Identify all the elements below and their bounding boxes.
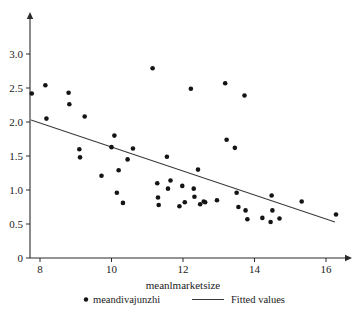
x-axis-tick-label: 12	[178, 263, 189, 275]
scatter-point	[270, 208, 275, 213]
scatter-point	[177, 204, 182, 209]
scatter-point	[150, 66, 155, 71]
x-axis-arrow	[345, 255, 352, 261]
scatter-point	[116, 168, 121, 173]
scatter-point	[109, 145, 114, 150]
scatter-point	[115, 190, 120, 195]
scatter-point	[299, 199, 304, 204]
scatter-point	[260, 216, 265, 221]
scatter-point	[78, 155, 83, 160]
scatter-point	[234, 190, 239, 195]
scatter-point	[44, 116, 49, 121]
scatter-point	[29, 91, 34, 96]
scatter-point	[182, 200, 187, 205]
scatter-point	[156, 203, 161, 208]
x-axis-tick-label: 8	[37, 263, 43, 275]
x-axis-tick-label: 10	[106, 263, 118, 275]
scatter-point	[180, 184, 185, 189]
scatter-point	[99, 173, 104, 178]
y-axis-tick-label: 3.0	[9, 48, 23, 60]
scatter-point	[192, 195, 197, 200]
scatter-point	[131, 146, 136, 151]
scatter-point	[203, 200, 208, 205]
scatter-point	[224, 137, 229, 142]
scatter-point	[334, 212, 339, 217]
scatter-point	[66, 90, 71, 95]
scatter-point	[277, 216, 282, 221]
y-axis-tick-label: 0	[18, 252, 24, 264]
scatter-point	[223, 81, 228, 86]
scatter-point	[165, 154, 170, 159]
scatter-point	[242, 93, 247, 98]
scatter-point	[168, 178, 173, 183]
x-axis-tick-label: 14	[249, 263, 261, 275]
scatter-point	[245, 217, 250, 222]
scatter-point	[189, 86, 194, 91]
scatter-point	[196, 167, 201, 172]
scatter-point	[243, 208, 248, 213]
scatter-point	[156, 195, 161, 200]
legend-label-fitted-values: Fitted values	[231, 294, 285, 305]
scatter-point	[77, 147, 82, 152]
legend-label-meandivajunzhi: meandivajunzhi	[93, 294, 160, 305]
legend-dot-marker	[84, 297, 88, 301]
scatter-point	[236, 205, 241, 210]
scatter-point	[125, 157, 130, 162]
scatter-plot-figure: 00.51.01.52.02.53.0810121416meanlmarkets…	[0, 0, 363, 316]
y-axis-tick-label: 2.0	[9, 116, 23, 128]
scatter-point	[233, 146, 238, 151]
scatter-point	[155, 181, 160, 186]
x-axis-tick-label: 16	[321, 263, 333, 275]
scatter-point	[43, 83, 48, 88]
scatter-point	[191, 186, 196, 191]
scatter-point	[269, 193, 274, 198]
fitted-values-line	[31, 120, 335, 222]
x-axis-title: meanlmarketsize	[146, 279, 221, 291]
scatter-point	[166, 186, 171, 191]
scatter-point	[67, 102, 72, 107]
y-axis-tick-label: 1.5	[9, 150, 23, 162]
chart-canvas: 00.51.01.52.02.53.0810121416meanlmarkets…	[0, 0, 363, 316]
scatter-point	[112, 133, 117, 138]
scatter-point	[82, 114, 87, 119]
scatter-point	[268, 220, 273, 225]
y-axis-tick-label: 0.5	[9, 218, 23, 230]
y-axis-tick-label: 2.5	[9, 82, 23, 94]
y-axis-arrow	[27, 12, 33, 19]
scatter-point	[215, 198, 220, 203]
scatter-point	[121, 201, 126, 206]
y-axis-tick-label: 1.0	[9, 184, 23, 196]
